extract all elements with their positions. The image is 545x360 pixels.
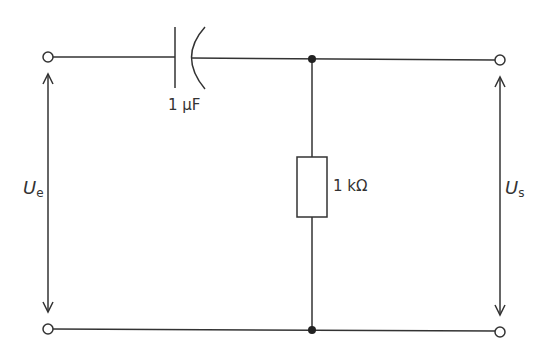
- wire-bottom: [53, 329, 495, 331]
- terminal-input-bottom: [43, 324, 53, 334]
- wire-top-right: [191, 58, 495, 60]
- terminal-output-bottom: [495, 327, 505, 337]
- resistor-label: 1 kΩ: [333, 177, 367, 195]
- output-voltage-label: Us: [505, 177, 524, 200]
- terminal-output-top: [495, 55, 505, 65]
- input-voltage-label: Ue: [23, 177, 44, 200]
- terminal-input-top: [43, 52, 53, 62]
- circuit-diagram: [0, 0, 545, 360]
- junction-bottom: [308, 326, 316, 334]
- junction-top: [308, 55, 316, 63]
- capacitor-label: 1 µF: [168, 96, 200, 114]
- resistor: [297, 157, 327, 217]
